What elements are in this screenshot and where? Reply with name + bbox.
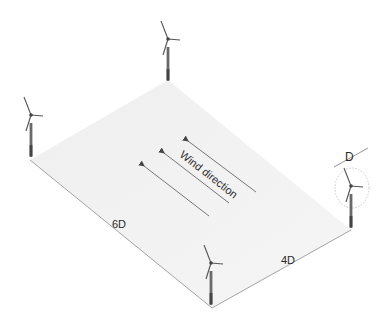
- wind-turbine-icon: [344, 168, 363, 228]
- wind-turbine-icon: [24, 97, 43, 157]
- wind-farm-platform: [30, 80, 351, 308]
- rotor-diameter-label: D: [345, 150, 354, 164]
- wind-turbine-icon: [161, 21, 180, 81]
- wind-farm-diagram: Wind direction D 6D 4D: [0, 0, 392, 323]
- crosswind-spacing-label: 4D: [281, 254, 295, 266]
- downwind-spacing-label: 6D: [112, 218, 126, 230]
